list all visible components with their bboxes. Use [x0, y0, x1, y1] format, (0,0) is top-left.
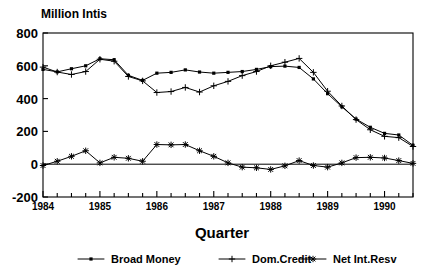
- data-point-marker: [169, 71, 172, 74]
- data-point-marker: [296, 157, 302, 163]
- data-point-marker: [196, 148, 202, 154]
- data-point-marker: [367, 154, 373, 160]
- data-point-marker: [97, 160, 103, 166]
- data-point-marker: [182, 84, 188, 90]
- data-point-marker: [155, 72, 158, 75]
- data-point-marker: [353, 154, 359, 160]
- data-point-marker: [211, 83, 217, 89]
- x-axis-title: Quarter: [195, 224, 249, 241]
- legend-marker-icon: [229, 256, 235, 262]
- data-point-marker: [198, 70, 201, 73]
- legend-item-dom-credit[interactable]: Dom.Credit: [219, 253, 312, 265]
- y-tick-label: 600: [16, 59, 38, 74]
- legend-label: Net Int.Resv: [333, 253, 397, 265]
- x-tick-label: 1986: [146, 201, 169, 212]
- data-point-marker: [396, 157, 402, 163]
- data-point-marker: [111, 154, 117, 160]
- data-point-marker: [253, 165, 259, 171]
- data-point-marker: [196, 89, 202, 95]
- data-point-marker: [298, 66, 301, 69]
- data-point-marker: [40, 162, 46, 168]
- data-point-marker: [68, 153, 74, 159]
- line-chart-figure: Million Intis -2000200400600800 19841985…: [0, 0, 432, 278]
- chart-legend: Broad MoneyDom.CreditNet Int.Resv: [78, 253, 397, 265]
- data-point-marker: [70, 67, 73, 70]
- data-point-marker: [182, 141, 188, 147]
- x-tick-label: 1987: [203, 201, 226, 212]
- x-tick-label: 1989: [316, 201, 339, 212]
- series-dom-credit: [40, 55, 416, 149]
- data-point-marker: [154, 141, 160, 147]
- x-tick-label: 1984: [32, 201, 55, 212]
- data-point-marker: [267, 166, 273, 172]
- data-point-marker: [367, 127, 373, 133]
- series-net-int-resv: [40, 141, 416, 172]
- chart-container: Million Intis -2000200400600800 19841985…: [0, 0, 432, 278]
- legend-label: Broad Money: [111, 253, 182, 265]
- x-axis: 1984198519861987198819891990: [32, 191, 413, 212]
- x-tick-label: 1985: [89, 201, 112, 212]
- data-point-marker: [282, 59, 288, 65]
- y-tick-label: 0: [31, 157, 38, 172]
- data-point-marker: [239, 72, 245, 78]
- data-point-marker: [339, 160, 345, 166]
- data-point-marker: [82, 148, 88, 154]
- data-point-marker: [267, 63, 273, 69]
- data-point-marker: [282, 163, 288, 169]
- data-point-marker: [168, 88, 174, 94]
- legend-marker-icon: [310, 256, 316, 262]
- data-point-marker: [225, 78, 231, 84]
- data-point-marker: [54, 158, 60, 164]
- y-axis-unit-label: Million Intis: [41, 7, 107, 21]
- series-broad-money: [41, 57, 414, 147]
- data-point-marker: [312, 77, 315, 80]
- data-point-marker: [396, 134, 402, 140]
- y-tick-label: 800: [16, 26, 38, 41]
- y-tick-label: 200: [16, 124, 38, 139]
- data-point-marker: [310, 162, 316, 168]
- legend-marker-icon: [89, 257, 92, 260]
- legend-item-net-int-resv[interactable]: Net Int.Resv: [300, 253, 397, 265]
- data-point-marker: [225, 160, 231, 166]
- data-point-marker: [84, 64, 87, 67]
- data-point-marker: [324, 164, 330, 170]
- data-point-marker: [410, 160, 416, 166]
- legend-item-broad-money[interactable]: Broad Money: [78, 253, 182, 265]
- data-point-marker: [226, 71, 229, 74]
- y-tick-label: 400: [16, 92, 38, 107]
- data-point-marker: [125, 155, 131, 161]
- data-point-marker: [168, 142, 174, 148]
- data-point-marker: [184, 68, 187, 71]
- data-point-marker: [239, 164, 245, 170]
- data-point-marker: [211, 153, 217, 159]
- series-layer: [40, 55, 416, 172]
- data-point-marker: [139, 158, 145, 164]
- data-point-marker: [54, 69, 60, 75]
- x-tick-label: 1990: [373, 201, 396, 212]
- data-point-marker: [212, 72, 215, 75]
- data-point-marker: [68, 71, 74, 77]
- data-point-marker: [381, 155, 387, 161]
- x-tick-label: 1988: [260, 201, 283, 212]
